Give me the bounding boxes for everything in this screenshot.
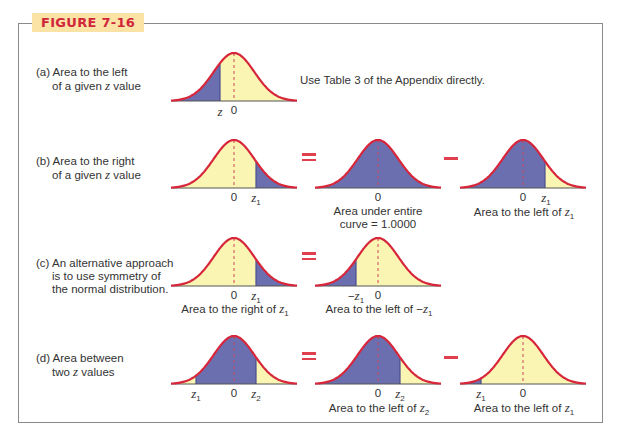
caption-c2: Area to the left of −z1: [312, 302, 446, 320]
caption-d3: Area to the left of z1: [462, 401, 586, 419]
minus-icon-d: [444, 356, 458, 359]
tick-c2-0: 0: [363, 289, 393, 301]
caption-d2: Area to the left of z2: [316, 401, 442, 419]
tick-b1-z1: z1: [241, 190, 271, 207]
equals-icon-b: [302, 153, 316, 162]
equals-icon-c: [302, 252, 316, 261]
tick-b2-0: 0: [363, 191, 393, 203]
equals-icon-d: [302, 352, 316, 361]
caption-c1: Area to the right of z1: [172, 302, 298, 320]
tick-a-0: 0: [219, 104, 249, 116]
minus-icon-b: [444, 157, 458, 160]
tick-d1-z1: z1: [181, 386, 211, 403]
tick-d1-z2: z2: [241, 386, 271, 403]
caption-b3: Area to the left of z1: [462, 205, 586, 223]
tick-d3-0: 0: [508, 387, 538, 399]
caption-b2: Area under entire curve = 1.0000: [318, 205, 438, 231]
